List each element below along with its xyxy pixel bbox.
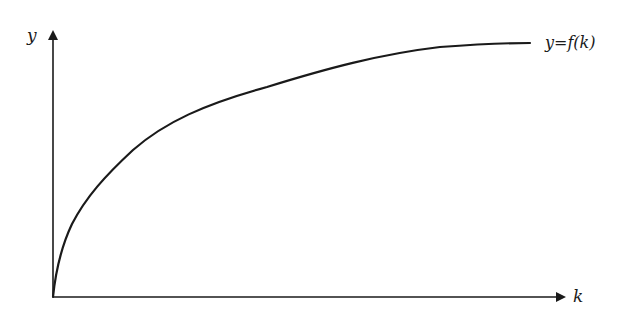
production-function-diagram: y k y=f(k): [0, 0, 627, 336]
production-curve: [53, 43, 530, 297]
y-axis-label: y: [26, 25, 37, 45]
curve-label: y=f(k): [544, 33, 596, 52]
x-axis-label: k: [573, 286, 583, 306]
